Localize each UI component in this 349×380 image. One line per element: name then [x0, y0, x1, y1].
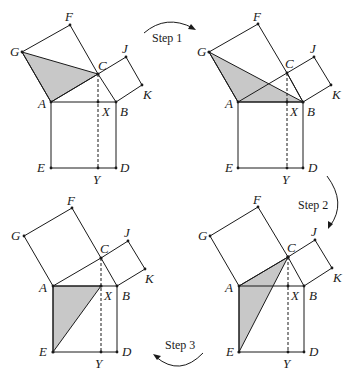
label-A: A [37, 96, 46, 111]
label-F: F [252, 9, 262, 24]
shaded-triangle-AXE [53, 286, 101, 352]
label-E: E [36, 160, 45, 175]
label-G: G [11, 228, 21, 243]
label-E: E [224, 160, 233, 175]
label-A: A [38, 280, 47, 295]
label-F: F [64, 9, 74, 24]
curved-arrow-icon [327, 176, 338, 226]
label-K: K [331, 87, 342, 102]
label-B: B [122, 288, 130, 303]
arrowhead-icon [188, 24, 196, 30]
step-1-arrow: Step 1 [144, 22, 196, 45]
label-G: G [198, 228, 208, 243]
label-A: A [224, 280, 233, 295]
label-Y: Y [93, 172, 102, 187]
label-B: B [120, 104, 128, 119]
label-X: X [101, 104, 111, 119]
label-G: G [197, 44, 207, 59]
label-K: K [142, 87, 153, 102]
label-C: C [285, 56, 294, 71]
label-Y: Y [95, 356, 104, 371]
step-3-label: Step 3 [165, 338, 195, 352]
label-B: B [307, 104, 315, 119]
label-F: F [252, 192, 262, 207]
panel-4: G F C J K A X B E D Y [198, 192, 343, 371]
label-K: K [144, 271, 155, 286]
label-A: A [224, 96, 233, 111]
label-B: B [309, 288, 317, 303]
panel-2: G F C J K A X B E D Y [197, 9, 342, 187]
label-E: E [38, 344, 47, 359]
label-X: X [289, 104, 299, 119]
pythagorean-proof-diagram: G F C J K A X B E D Y Step 1 G F [0, 0, 349, 380]
curved-arrow-icon [156, 353, 203, 366]
label-D: D [308, 344, 319, 359]
square-on-AC [24, 208, 101, 286]
label-E: E [225, 344, 234, 359]
arrowhead-icon [153, 354, 161, 360]
step-2-label: Step 2 [298, 198, 328, 212]
label-J: J [124, 225, 131, 240]
panel-1: G F C J K A X B E D Y [10, 9, 153, 187]
label-Y: Y [283, 356, 292, 371]
label-X: X [290, 288, 300, 303]
label-X: X [103, 288, 113, 303]
label-J: J [122, 41, 129, 56]
label-C: C [287, 240, 296, 255]
label-G: G [10, 44, 20, 59]
shaded-triangle-GAC [22, 52, 98, 102]
label-D: D [307, 160, 318, 175]
label-Y: Y [282, 172, 291, 187]
label-C: C [100, 241, 109, 256]
label-D: D [119, 160, 130, 175]
step-1-label: Step 1 [152, 31, 182, 45]
step-3-arrow: Step 3 [153, 338, 203, 366]
label-C: C [98, 58, 107, 73]
label-D: D [121, 344, 132, 359]
step-2-arrow: Step 2 [298, 176, 338, 229]
label-J: J [310, 41, 317, 56]
panel-3: G F C J K A X B E D Y [11, 193, 155, 371]
label-J: J [311, 224, 318, 239]
label-F: F [66, 193, 76, 208]
label-K: K [332, 270, 343, 285]
